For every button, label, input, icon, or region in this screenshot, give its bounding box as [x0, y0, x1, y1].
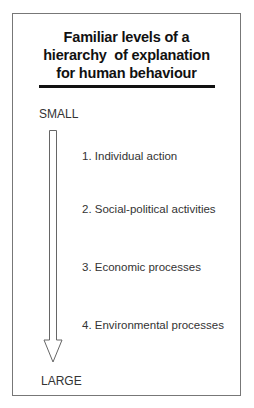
title-divider [39, 85, 215, 88]
level-item-1: 1. Individual action [82, 150, 177, 162]
level-item-4: 4. Environmental processes [82, 319, 224, 331]
title-line-2: hierarchy of explanation [12, 46, 241, 64]
scale-top-label: SMALL [39, 107, 78, 121]
level-item-3: 3. Economic processes [82, 261, 201, 273]
down-arrow-icon [43, 130, 63, 364]
level-item-2: 2. Social-political activities [82, 203, 216, 215]
title-line-3: for human behaviour [12, 64, 241, 82]
diagram-title: Familiar levels of a hierarchy of explan… [12, 28, 241, 82]
scale-bottom-label: LARGE [41, 374, 82, 388]
title-line-1: Familiar levels of a [12, 28, 241, 46]
